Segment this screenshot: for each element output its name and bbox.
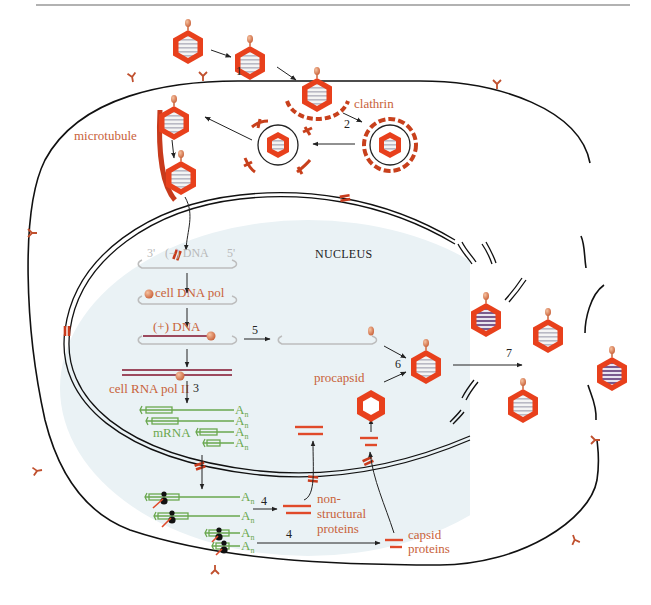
five-prime-label: 5' [227, 246, 235, 260]
coated-vesicle [364, 119, 416, 171]
capsid-proteins-label-1: capsid [408, 527, 442, 542]
procapsid-label: procapsid [314, 370, 365, 385]
nonstructural-label-3: proteins [317, 521, 359, 536]
uncoated-vesicle [244, 119, 312, 174]
virion-icon [533, 308, 563, 353]
virion-icon [508, 378, 538, 423]
nonstructural-label-2: structural [317, 506, 366, 521]
virion-icon [159, 95, 189, 140]
step-3-label: 3 [193, 381, 199, 395]
three-prime-label: 3' [147, 246, 155, 260]
step-5-label: 5 [252, 323, 258, 337]
poly-a-tails-nucleus: An An An An [235, 402, 248, 452]
receptor-icon [199, 72, 207, 81]
step-7-label: 7 [506, 346, 512, 360]
clathrin-pit [287, 67, 348, 119]
virion-icon [471, 292, 501, 337]
step-1-label: 1 [236, 64, 242, 78]
virion-icon [173, 19, 203, 64]
virion-icon [166, 150, 196, 195]
nonstructural-label-1: non- [317, 491, 341, 506]
diagram-canvas: NUCLEUS 1 clathrin 2 microtubule [0, 0, 651, 605]
receptor-icon [211, 565, 219, 574]
receptor-icon [591, 436, 600, 444]
nucleus-label: NUCLEUS [315, 247, 372, 261]
microtubule-label: microtubule [74, 128, 137, 143]
receptor-icon [569, 534, 580, 545]
minus-dna-label: (−) DNA [165, 246, 209, 260]
receptor-icon [493, 80, 501, 89]
step-6-label: 6 [395, 357, 401, 371]
step-2-label: 2 [344, 117, 350, 131]
plus-dna-label: (+) DNA [153, 319, 201, 334]
clathrin-label: clathrin [354, 96, 394, 111]
receptor-icon [127, 72, 136, 82]
virion-icon [597, 346, 627, 391]
step-4a-label: 4 [261, 494, 267, 508]
step-4b-label: 4 [286, 527, 292, 541]
nuclear-pore-icon [65, 326, 69, 336]
mrna-label: mRNA [153, 425, 191, 440]
cell-rna-pol-label: cell RNA pol II [109, 381, 190, 396]
cell-dna-pol-label: cell DNA pol [155, 285, 225, 300]
receptor-icon [32, 466, 42, 475]
capsid-proteins-label-2: proteins [408, 541, 450, 556]
